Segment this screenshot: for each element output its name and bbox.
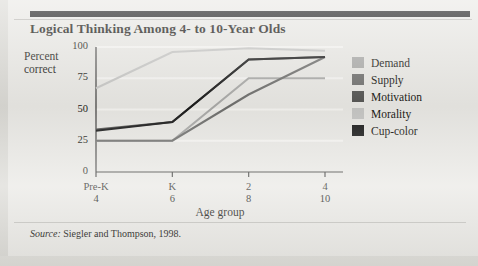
series-line-cup-color bbox=[96, 57, 325, 131]
page-edge-bottom bbox=[0, 256, 478, 266]
legend-item-label: Demand bbox=[371, 57, 410, 69]
legend-item-label: Morality bbox=[371, 108, 411, 120]
x-axis-grade-label: K bbox=[149, 181, 195, 192]
y-axis-tick-label: 100 bbox=[62, 40, 88, 51]
x-axis-age-label: 6 bbox=[149, 193, 195, 204]
x-axis-title: Age group bbox=[160, 206, 280, 218]
x-axis-grade-label: 2 bbox=[226, 181, 272, 192]
legend-item[interactable]: Demand bbox=[352, 54, 422, 71]
legend-swatch-icon bbox=[352, 57, 364, 68]
y-axis-tick-label: 50 bbox=[62, 103, 88, 114]
y-axis-tick-label: 75 bbox=[62, 71, 88, 82]
x-axis-grade-label: Pre-K bbox=[73, 181, 119, 192]
x-axis-age-label: 8 bbox=[226, 193, 272, 204]
legend: DemandSupplyMotivationMoralityCup-color bbox=[352, 54, 422, 139]
series-line-morality bbox=[96, 48, 325, 88]
x-axis-age-label: 10 bbox=[302, 193, 348, 204]
legend-item[interactable]: Cup-color bbox=[352, 122, 422, 139]
y-axis-tick-label: 25 bbox=[62, 134, 88, 145]
source-note: Source: Siegler and Thompson, 1998. bbox=[30, 228, 181, 239]
series-line-supply bbox=[96, 57, 325, 141]
legend-swatch-icon bbox=[352, 74, 364, 85]
legend-swatch-icon bbox=[352, 108, 364, 119]
source-text: Siegler and Thompson, 1998. bbox=[63, 228, 181, 239]
figure-container: Logical Thinking Among 4- to 10-Year Old… bbox=[0, 0, 478, 266]
y-axis-title-line1: Percent bbox=[24, 50, 86, 63]
legend-item[interactable]: Morality bbox=[352, 105, 422, 122]
legend-swatch-icon bbox=[352, 125, 364, 136]
legend-item-label: Cup-color bbox=[371, 125, 418, 137]
x-axis-age-label: 4 bbox=[73, 193, 119, 204]
legend-item-label: Motivation bbox=[371, 91, 422, 103]
series-lines bbox=[96, 48, 325, 141]
legend-item[interactable]: Motivation bbox=[352, 88, 422, 105]
y-axis-tick-label: 0 bbox=[62, 165, 88, 176]
page-edge-left bbox=[0, 0, 8, 266]
source-prefix: Source: bbox=[30, 228, 61, 239]
legend-item[interactable]: Supply bbox=[352, 71, 422, 88]
legend-swatch-icon bbox=[352, 91, 364, 102]
x-axis-grade-label: 4 bbox=[302, 181, 348, 192]
legend-item-label: Supply bbox=[371, 74, 404, 86]
